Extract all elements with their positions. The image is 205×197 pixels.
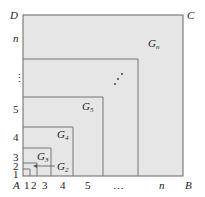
diag-dot bbox=[114, 83, 116, 85]
x-tick-5: 5 bbox=[85, 179, 91, 191]
x-tick-ellipsis: … bbox=[113, 179, 124, 191]
diag-dot bbox=[121, 73, 123, 75]
diag-dot bbox=[117, 78, 119, 80]
y-tick-4: 4 bbox=[13, 131, 19, 143]
corner-a-label: A bbox=[12, 179, 20, 191]
x-tick-2: 2 bbox=[31, 179, 37, 191]
x-tick-3: 3 bbox=[42, 179, 48, 191]
x-tick-4: 4 bbox=[60, 179, 66, 191]
corner-d-label: D bbox=[9, 9, 18, 21]
x-tick-n: n bbox=[159, 179, 165, 191]
nested-squares-diagram: D C A B 1 2 3 4 5 … n 1 2 3 4 5 ⋮ n G2 G… bbox=[0, 0, 205, 197]
y-tick-vdots: ⋮ bbox=[14, 72, 25, 84]
y-tick-3: 3 bbox=[13, 151, 19, 163]
corner-c-label: C bbox=[187, 9, 195, 21]
y-tick-n: n bbox=[13, 32, 19, 44]
corner-b-label: B bbox=[185, 179, 192, 191]
y-tick-5: 5 bbox=[13, 103, 19, 115]
x-tick-1: 1 bbox=[24, 179, 30, 191]
